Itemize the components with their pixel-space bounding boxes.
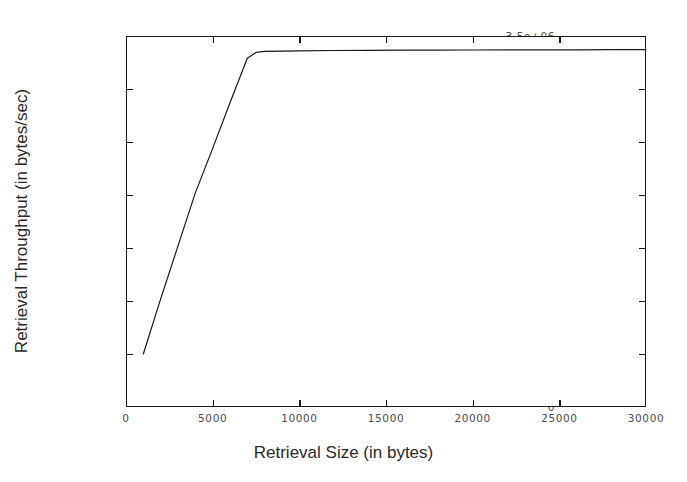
chart-figure: 05000001e+061.5e+062e+062.5e+063e+063.5e… xyxy=(0,0,687,482)
x-tick-label: 0 xyxy=(122,412,129,424)
x-tick-label: 15000 xyxy=(368,412,404,424)
series-polyline xyxy=(143,50,646,354)
x-tick-label: 25000 xyxy=(541,412,577,424)
x-tick-label: 5000 xyxy=(198,412,227,424)
x-tick-label: 20000 xyxy=(454,412,490,424)
plot-area xyxy=(126,36,646,407)
series-line-retrieval-throughput xyxy=(126,36,646,407)
x-axis-title: Retrieval Size (in bytes) xyxy=(0,443,687,463)
x-tick-label: 30000 xyxy=(628,412,664,424)
x-tick-label: 10000 xyxy=(281,412,317,424)
y-axis-title: Retrieval Throughput (in bytes/sec) xyxy=(12,89,32,353)
